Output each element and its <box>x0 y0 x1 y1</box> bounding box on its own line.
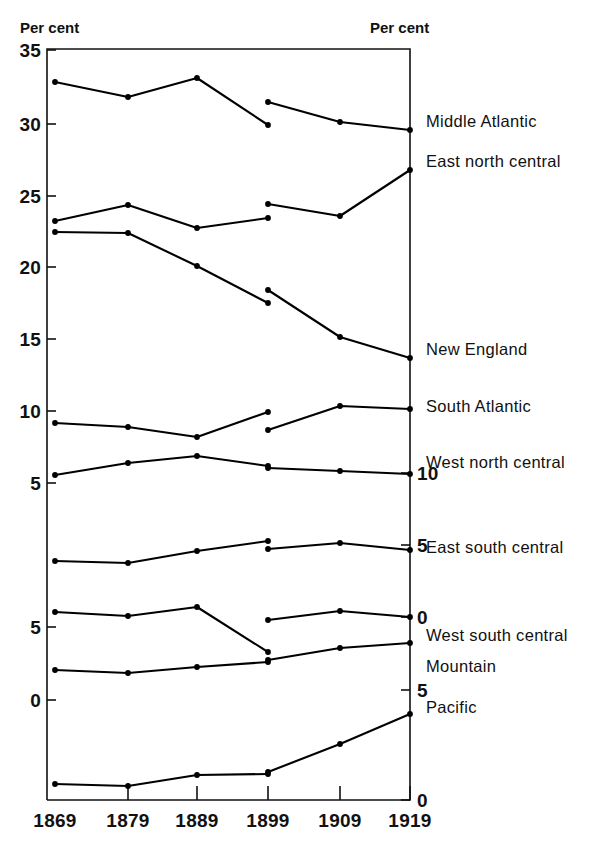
series-label-middle-atlantic: Middle Atlantic <box>426 112 537 130</box>
left-tick-label: 0 <box>30 690 41 711</box>
series-point <box>194 664 200 670</box>
series-middle-atlantic <box>52 75 413 133</box>
series-point <box>125 202 131 208</box>
series-point <box>407 355 413 361</box>
left-tick-label: 30 <box>19 114 41 135</box>
series-point <box>407 711 413 717</box>
series-mountain <box>52 640 413 676</box>
series-point <box>194 453 200 459</box>
series-point <box>407 167 413 173</box>
series-point <box>265 617 271 623</box>
series-point <box>194 225 200 231</box>
series-point <box>265 538 271 544</box>
series-pacific <box>52 711 413 789</box>
series-path <box>55 541 268 563</box>
series-point <box>52 609 58 615</box>
series-path <box>55 456 268 475</box>
chart-figure: Per cent Per cent 353025201510550 105050… <box>0 0 607 853</box>
left-tick-label: 15 <box>19 329 41 350</box>
series-label-west-south-central: West south central <box>426 626 568 644</box>
series-point <box>52 667 58 673</box>
series-point <box>265 657 271 663</box>
series-point <box>337 468 343 474</box>
series-path <box>55 78 268 125</box>
series-point <box>337 608 343 614</box>
right-tick-label: 0 <box>417 607 428 628</box>
series-label-pacific: Pacific <box>426 698 477 716</box>
series-point <box>337 119 343 125</box>
series-point <box>265 409 271 415</box>
series-point <box>337 645 343 651</box>
series-label-mountain: Mountain <box>426 657 496 675</box>
series-point <box>52 781 58 787</box>
series-path <box>55 607 268 652</box>
series-path <box>55 412 268 437</box>
series-point <box>337 741 343 747</box>
chart-svg: Per cent Per cent 353025201510550 105050… <box>0 0 607 853</box>
right-tick-label: 0 <box>417 790 428 811</box>
series-point <box>194 604 200 610</box>
series-path <box>268 102 410 130</box>
series-point <box>52 218 58 224</box>
unit-label-right: Per cent <box>370 19 429 36</box>
series-point <box>265 287 271 293</box>
left-tick-label: 5 <box>30 473 41 494</box>
series-point <box>265 99 271 105</box>
series-point <box>125 230 131 236</box>
left-tick-label: 20 <box>19 257 41 278</box>
series-east-north-central <box>52 167 413 231</box>
series-path <box>268 406 410 430</box>
series-point <box>407 614 413 620</box>
series-point <box>265 769 271 775</box>
series-point <box>194 263 200 269</box>
series-east-south-central <box>52 538 413 566</box>
series-layer <box>52 75 413 789</box>
series-labels-layer: Middle AtlanticEast north centralNew Eng… <box>426 112 568 716</box>
series-point <box>337 540 343 546</box>
left-tick-label: 10 <box>19 401 41 422</box>
series-point <box>125 460 131 466</box>
series-point <box>337 403 343 409</box>
series-point <box>337 213 343 219</box>
series-point <box>125 613 131 619</box>
series-point <box>52 472 58 478</box>
series-path <box>268 290 410 358</box>
series-path <box>55 205 268 228</box>
series-point <box>265 465 271 471</box>
series-point <box>52 558 58 564</box>
series-path <box>268 170 410 216</box>
left-tick-label: 5 <box>30 617 41 638</box>
x-tick-label: 1909 <box>318 810 361 831</box>
series-point <box>337 334 343 340</box>
series-point <box>52 420 58 426</box>
series-label-new-england: New England <box>426 340 527 358</box>
series-point <box>52 229 58 235</box>
series-point <box>125 670 131 676</box>
series-label-east-north-central: East north central <box>426 152 561 170</box>
left-axis-ticks: 353025201510550 <box>19 40 56 711</box>
series-point <box>52 79 58 85</box>
series-west-north-central <box>52 453 413 478</box>
series-point <box>265 300 271 306</box>
x-tick-label: 1879 <box>106 810 149 831</box>
series-label-west-north-central: West north central <box>426 453 565 471</box>
series-new-england <box>52 229 413 361</box>
series-point <box>194 772 200 778</box>
x-tick-label: 1869 <box>33 810 76 831</box>
series-point <box>194 548 200 554</box>
x-tick-label: 1889 <box>175 810 218 831</box>
series-point <box>407 640 413 646</box>
series-point <box>265 649 271 655</box>
series-label-south-atlantic: South Atlantic <box>426 397 531 415</box>
series-point <box>125 783 131 789</box>
series-path <box>55 232 268 303</box>
series-point <box>265 201 271 207</box>
x-axis-ticks: 186918791889189919091919 <box>33 786 431 831</box>
series-point <box>265 546 271 552</box>
series-point <box>125 424 131 430</box>
x-tick-label: 1919 <box>388 810 431 831</box>
unit-label-left: Per cent <box>20 19 79 36</box>
x-tick-label: 1899 <box>246 810 289 831</box>
series-path <box>55 662 268 673</box>
series-point <box>125 560 131 566</box>
